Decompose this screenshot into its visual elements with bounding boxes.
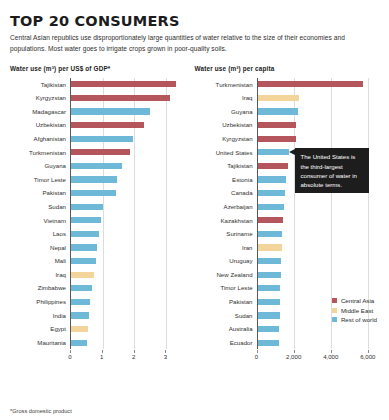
chart-legend: Central AsiaMiddle EastRest of world	[332, 297, 377, 323]
bar	[258, 81, 364, 87]
bar-row	[258, 322, 379, 336]
bar	[258, 299, 280, 305]
callout-united-states: The United States is the third-largest c…	[295, 148, 369, 193]
legend-item: Middle East	[332, 307, 377, 314]
footnote: *Gross domestic product	[10, 408, 72, 414]
bar	[258, 285, 281, 291]
axis-tick-label: 4,000	[323, 353, 338, 360]
bar	[71, 326, 88, 332]
bar	[258, 312, 280, 318]
bar	[258, 326, 280, 332]
chart-panel-water-use-per-capita: Water use (m³) per capita TurkmenistanIr…	[195, 65, 379, 363]
bar-row	[71, 159, 185, 173]
bar	[258, 136, 296, 142]
category-label: Mali	[10, 254, 70, 268]
bar	[258, 95, 299, 101]
axis-spacer-right	[195, 349, 257, 362]
category-label: Iraq	[195, 91, 257, 105]
axis-tick-label: 2,000	[286, 353, 301, 360]
bar-row	[71, 281, 185, 295]
bar	[258, 217, 284, 223]
bar	[71, 149, 130, 155]
chart-title-left: Water use (m³) per US$ of GDP*	[10, 65, 185, 72]
category-label: Turkmenistan	[10, 146, 70, 160]
bar	[71, 244, 97, 250]
legend-item: Central Asia	[332, 297, 377, 304]
bar-row	[258, 336, 379, 350]
category-label: Ecuador	[195, 336, 257, 350]
bar-row	[258, 78, 379, 92]
axis-tick-label: 6,000	[360, 353, 375, 360]
category-label: Uzbekistan	[195, 118, 257, 132]
axis-tick-label: 2	[132, 353, 135, 360]
legend-label: Rest of world	[341, 316, 377, 323]
bar-row	[71, 214, 185, 228]
axis-tick-label: 3	[164, 353, 167, 360]
bar	[71, 190, 116, 196]
legend-swatch	[332, 308, 337, 313]
axis-spacer-left	[10, 349, 70, 362]
category-label: Tajikistan	[10, 78, 70, 92]
category-label: Pakistan	[10, 186, 70, 200]
bar-row	[71, 200, 185, 214]
bar-row	[258, 227, 379, 241]
chart-title-right: Water use (m³) per capita	[195, 65, 379, 72]
bar	[71, 217, 101, 223]
bar	[71, 204, 103, 210]
bar	[71, 231, 99, 237]
bar	[71, 163, 122, 169]
bar	[71, 108, 150, 114]
bar-row	[71, 322, 185, 336]
bar-row	[71, 78, 185, 92]
category-label: Tajikistan	[195, 159, 257, 173]
category-labels-left: TajikistanKyrgyzstanMadagascarUzbekistan…	[10, 78, 70, 350]
category-label: Iraq	[10, 268, 70, 282]
legend-label: Middle East	[341, 307, 373, 314]
chart-panel-water-use-per-gdp: Water use (m³) per US$ of GDP* Tajikista…	[10, 65, 185, 363]
bar-row	[71, 173, 185, 187]
callout-text: The United States is the third-largest c…	[300, 153, 357, 188]
bar	[71, 81, 176, 87]
bars-left	[71, 78, 185, 350]
bar	[258, 340, 279, 346]
bar-row	[71, 295, 185, 309]
category-label: Kazakhstan	[195, 214, 257, 228]
category-label: Uruguay	[195, 254, 257, 268]
bar-row	[71, 268, 185, 282]
legend-swatch	[332, 317, 337, 322]
category-label: Sudan	[10, 200, 70, 214]
page-subtitle: Central Asian republics use disproportio…	[10, 33, 378, 54]
category-label: Estonia	[195, 173, 257, 187]
category-labels-right: TurkmenistanIraqGuyanaUzbekistanKyrgyzst…	[195, 78, 257, 350]
category-label: Guyana	[10, 159, 70, 173]
axis-tick-label: 0	[255, 353, 258, 360]
bar-row	[71, 105, 185, 119]
bar-row	[258, 132, 379, 146]
bar	[71, 258, 96, 264]
bar	[258, 272, 281, 278]
plot-row-left: TajikistanKyrgyzstanMadagascarUzbekistan…	[10, 78, 185, 350]
bar	[71, 285, 92, 291]
bar	[258, 231, 283, 237]
legend-label: Central Asia	[341, 297, 374, 304]
category-label: Sudan	[195, 309, 257, 323]
category-label: Afghanistan	[10, 132, 70, 146]
infographic-page: TOP 20 CONSUMERS Central Asian republics…	[0, 0, 389, 420]
category-label: Laos	[10, 227, 70, 241]
axis-tick-label: 1	[100, 353, 103, 360]
bar-row	[71, 186, 185, 200]
bar	[258, 163, 289, 169]
plot-row-right: TurkmenistanIraqGuyanaUzbekistanKyrgyzst…	[195, 78, 379, 350]
category-label: Kyrgyzstan	[195, 132, 257, 146]
category-label: Madagascar	[10, 105, 70, 119]
bar-row	[71, 227, 185, 241]
bar	[258, 190, 285, 196]
category-label: Guyana	[195, 105, 257, 119]
category-label: Timor Leste	[195, 281, 257, 295]
page-title: TOP 20 CONSUMERS	[10, 14, 379, 29]
plot-area-right: Central AsiaMiddle EastRest of world The…	[257, 78, 379, 350]
bar	[71, 312, 89, 318]
bar	[258, 108, 298, 114]
bar-row	[71, 254, 185, 268]
bar-row	[258, 254, 379, 268]
